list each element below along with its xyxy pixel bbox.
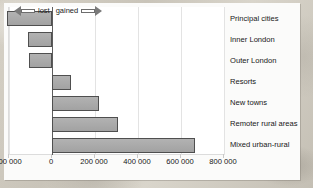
x-tickmark-800000 xyxy=(223,154,224,158)
plot-area xyxy=(8,7,224,155)
x-tick--200000: 200 000 xyxy=(0,158,22,166)
category-label-principal-cities: Principal cities xyxy=(230,15,279,23)
bar-inner-london xyxy=(28,32,52,47)
category-label-resorts: Resorts xyxy=(230,78,256,86)
x-tick-200000: 200 000 xyxy=(80,158,107,166)
x-tick-0: 0 xyxy=(49,158,53,166)
lost-gained-annotation: lost gained xyxy=(14,5,102,17)
bar-outer-london xyxy=(29,53,52,68)
gridline--200000 xyxy=(9,7,10,155)
category-label-new-towns: New towns xyxy=(230,99,267,107)
arrow-right-shaft-icon xyxy=(81,9,95,13)
gained-label: gained xyxy=(53,7,82,15)
x-tick-800000: 800 000 xyxy=(209,158,236,166)
gridline-600000 xyxy=(181,7,182,155)
bar-resorts xyxy=(52,75,71,90)
x-tick-600000: 600 000 xyxy=(166,158,193,166)
arrow-left-icon xyxy=(14,6,21,16)
x-tickmark--200000 xyxy=(8,154,9,158)
category-label-outer-london: Outer London xyxy=(230,57,276,65)
x-axis-tick-labels: 200 0000200 000400 000600 000800 000 xyxy=(8,158,232,172)
page-background: lost gained Principal citiesInner London… xyxy=(0,0,313,188)
category-label-inner-london: Inner London xyxy=(230,36,275,44)
bar-mixed-urban-rural xyxy=(52,138,195,153)
bar-remoter-rural-areas xyxy=(52,117,118,132)
lost-label: lost xyxy=(35,7,53,15)
gridline-200000 xyxy=(95,7,96,155)
x-tick-400000: 400 000 xyxy=(123,158,150,166)
x-tickmark-200000 xyxy=(94,154,95,158)
x-tickmark-400000 xyxy=(137,154,138,158)
bar-new-towns xyxy=(52,96,99,111)
gridline-800000 xyxy=(224,7,225,155)
x-tickmark-0 xyxy=(51,154,52,158)
plot-baseline xyxy=(9,154,224,155)
category-label-remoter-rural-areas: Remoter rural areas xyxy=(230,120,298,128)
gridline-400000 xyxy=(138,7,139,155)
arrow-right-icon xyxy=(95,6,102,16)
category-label-list: Principal citiesInner LondonOuter London… xyxy=(230,7,306,155)
arrow-left-shaft-icon xyxy=(21,9,35,13)
chart-card: lost gained Principal citiesInner London… xyxy=(4,3,300,180)
category-label-mixed-urban-rural: Mixed urban-rural xyxy=(230,141,290,149)
x-tickmark-600000 xyxy=(180,154,181,158)
